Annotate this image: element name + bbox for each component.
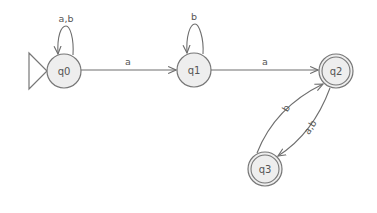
- state-q3[interactable]: q3: [248, 152, 282, 186]
- state-label: q0: [58, 66, 71, 77]
- transition-q1-q2[interactable]: a: [211, 56, 318, 71]
- state-label: q3: [259, 164, 272, 175]
- transition-q0-q1[interactable]: a: [81, 56, 176, 71]
- transition-label: b: [280, 103, 293, 114]
- state-q2[interactable]: q2: [319, 54, 353, 88]
- state-label: q2: [330, 66, 343, 77]
- transition-label: a: [262, 56, 268, 67]
- transition-label: a,b: [59, 13, 74, 24]
- state-label: q1: [188, 65, 201, 76]
- state-q0[interactable]: q0: [47, 54, 81, 88]
- transition-label: b: [191, 11, 197, 22]
- transition-q1-q1[interactable]: b: [187, 11, 203, 55]
- transition-q2-q3[interactable]: a,b: [278, 88, 330, 156]
- transition-label: a: [125, 56, 131, 67]
- automaton-diagram: a,b a b a b a,b q0 q1 q2: [0, 0, 377, 213]
- transition-q0-q0[interactable]: a,b: [58, 13, 74, 56]
- state-q1[interactable]: q1: [177, 53, 211, 87]
- initial-state-marker-icon: [29, 53, 47, 89]
- transition-q3-q2[interactable]: b: [257, 84, 323, 153]
